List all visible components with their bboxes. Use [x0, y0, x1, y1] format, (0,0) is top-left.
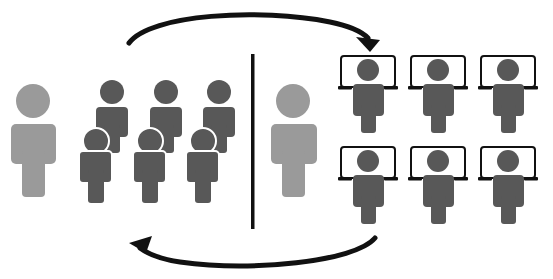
diagram-canvas — [0, 0, 553, 279]
vertical-divider — [251, 54, 255, 229]
left-group-members-front — [79, 128, 219, 203]
laptop-workers-row-2 — [338, 147, 538, 224]
laptop-workers-row-1 — [338, 56, 538, 133]
